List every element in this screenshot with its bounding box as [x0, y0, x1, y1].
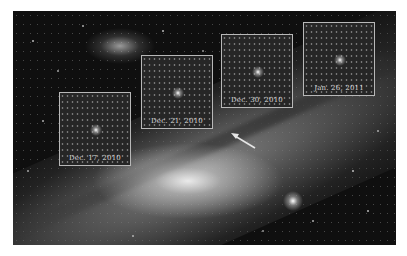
galaxy-photo: Dec. 17, 2010 Dec. 21, 2010 Dec. 30, 201… — [13, 11, 396, 245]
pointer-arrow-icon — [13, 11, 396, 245]
